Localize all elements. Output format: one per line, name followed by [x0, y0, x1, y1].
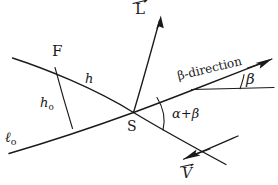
geometry-diagram: F S L h ho ℓo β-direction β α+β	[0, 0, 278, 185]
label-segment-h0: ho	[40, 96, 54, 112]
label-segment-h0-subscript: o	[48, 102, 53, 112]
label-angle-alpha-plus-beta: α+β	[172, 107, 199, 120]
label-vector-L: L	[135, 2, 145, 17]
vector-arrow-overline-icon	[132, 0, 148, 5]
baseline-l0	[9, 89, 197, 154]
diagram-canvas	[0, 0, 278, 185]
vector-L-arrowhead	[156, 16, 164, 30]
label-line-l0-subscript: o	[11, 136, 17, 147]
vector-arrow-overline-icon	[180, 162, 195, 169]
horizontal-reference-line	[192, 88, 275, 90]
vector-L-ray	[134, 21, 160, 113]
label-vector-V: V	[182, 166, 192, 180]
label-line-l0: ℓo	[5, 130, 17, 147]
beta-direction-arrow-feather	[248, 59, 273, 68]
angle-arc-beta	[240, 75, 244, 89]
label-angle-beta: β	[246, 72, 255, 87]
label-segment-h: h	[85, 72, 93, 85]
label-point-S: S	[127, 119, 137, 133]
label-point-F: F	[52, 44, 62, 59]
